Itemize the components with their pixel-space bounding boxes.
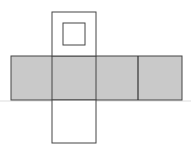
top-face [52,12,96,56]
bottom-face [52,100,96,143]
cube-net-diagram [0,0,191,154]
